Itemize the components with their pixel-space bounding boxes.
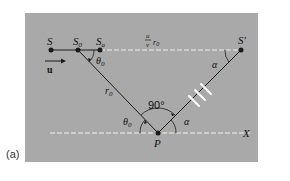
label-S-prime: S′ bbox=[238, 34, 247, 46]
panel-label: (a) bbox=[6, 148, 19, 160]
panel-background bbox=[25, 13, 258, 162]
point-S-prime bbox=[239, 48, 244, 53]
point-S bbox=[49, 48, 54, 53]
label-P: P bbox=[153, 137, 161, 149]
label-S: S bbox=[47, 35, 53, 47]
label-alpha-bottom: α bbox=[184, 116, 190, 127]
diagram-figure: S S0 Sa S′ u u v r0 θ0 r0 θ0 90° α α P X bbox=[0, 0, 290, 181]
point-P bbox=[156, 131, 161, 136]
label-right-angle: 90° bbox=[148, 99, 165, 111]
label-distance-num: u bbox=[146, 32, 150, 40]
label-X: X bbox=[242, 127, 251, 139]
label-alpha-top: α bbox=[212, 59, 218, 70]
label-u-vector: u bbox=[47, 64, 53, 75]
